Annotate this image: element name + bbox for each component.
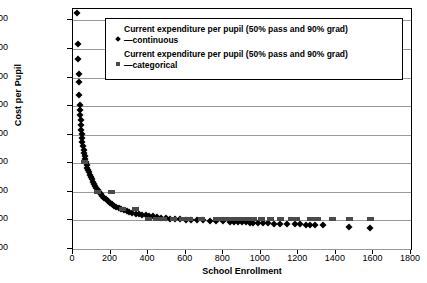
x-tick-mark	[410, 250, 411, 254]
x-tick-label: 200	[90, 253, 130, 263]
legend-label-continuous-line2: —continuous	[124, 35, 178, 45]
y-tick-label: $26,000	[0, 128, 8, 138]
y-tick-label: $21,000	[0, 156, 8, 166]
legend-item-continuous: Current expenditure per pupil (50% pass …	[112, 24, 396, 46]
data-point-square	[186, 217, 193, 221]
x-tick-label: 1600	[352, 253, 392, 263]
data-point-square	[153, 217, 160, 221]
data-point-square	[329, 217, 336, 221]
x-tick-label: 1400	[315, 253, 355, 263]
data-point-square	[81, 160, 88, 164]
x-tick-label: 800	[202, 253, 242, 263]
legend-label-continuous-line1: Current expenditure per pupil (50% pass …	[124, 24, 348, 34]
y-tick-label: $6,000	[0, 242, 8, 252]
data-point-diamond	[75, 78, 82, 85]
x-tick-label: 0	[52, 253, 92, 263]
data-point-diamond	[319, 221, 326, 228]
x-tick-label: 1000	[240, 253, 280, 263]
data-point-square	[250, 217, 257, 221]
chart-container: Cost per Pupil School Enrollment $6,000$…	[0, 0, 427, 283]
data-point-diamond	[75, 55, 82, 62]
data-point-square	[243, 217, 250, 221]
chart-legend: Current expenditure per pupil (50% pass …	[105, 18, 403, 80]
data-point-diamond	[366, 225, 373, 232]
data-point-square	[277, 217, 284, 221]
x-tick-label: 400	[127, 253, 167, 263]
x-tick-label: 1800	[390, 253, 427, 263]
data-point-diamond	[312, 221, 319, 228]
gridline	[73, 135, 411, 136]
data-point-square	[198, 217, 205, 221]
legend-label-categorical-line2: —categorical	[124, 60, 177, 70]
data-point-square	[119, 207, 126, 211]
x-tick-mark	[222, 250, 223, 254]
data-point-square	[170, 217, 177, 221]
data-point-diamond	[345, 224, 352, 231]
y-tick-label: $36,000	[0, 71, 8, 81]
x-tick-mark	[72, 250, 73, 254]
x-tick-mark	[147, 250, 148, 254]
data-point-square	[108, 190, 115, 194]
gridline	[73, 249, 411, 250]
gridline	[73, 163, 411, 164]
data-point-square	[160, 217, 167, 221]
data-point-square	[132, 207, 139, 211]
data-point-square	[307, 217, 314, 221]
data-point-square	[145, 217, 152, 221]
data-point-square	[94, 190, 101, 194]
legend-label-categorical-line1: Current expenditure per pupil (50% pass …	[124, 49, 348, 59]
data-point-square	[346, 217, 353, 221]
data-point-square	[267, 217, 274, 221]
x-tick-mark	[372, 250, 373, 254]
data-point-diamond	[284, 220, 291, 227]
data-point-square	[258, 217, 265, 221]
y-axis-label: Cost per Pupil	[13, 45, 23, 145]
data-point-square	[179, 217, 186, 221]
diamond-marker-icon	[112, 24, 124, 45]
square-marker-icon	[112, 49, 124, 70]
gridline	[73, 192, 411, 193]
data-point-diamond	[76, 91, 83, 98]
y-tick-label: $11,000	[0, 213, 8, 223]
x-tick-mark	[297, 250, 298, 254]
x-tick-label: 1200	[277, 253, 317, 263]
data-point-square	[367, 217, 374, 221]
x-tick-label: 600	[165, 253, 205, 263]
x-tick-mark	[185, 250, 186, 254]
y-tick-label: $46,000	[0, 13, 8, 23]
y-tick-label: $41,000	[0, 42, 8, 52]
x-axis-label: School Enrollment	[72, 266, 412, 276]
data-point-diamond	[74, 9, 81, 16]
x-tick-mark	[335, 250, 336, 254]
x-tick-mark	[110, 250, 111, 254]
data-point-diamond	[74, 41, 81, 48]
legend-item-categorical: Current expenditure per pupil (50% pass …	[112, 49, 396, 71]
data-point-square	[314, 217, 321, 221]
y-tick-label: $16,000	[0, 185, 8, 195]
data-point-square	[293, 217, 300, 221]
data-point-square	[213, 217, 220, 221]
x-tick-mark	[260, 250, 261, 254]
gridline	[73, 106, 411, 107]
y-tick-label: $31,000	[0, 99, 8, 109]
